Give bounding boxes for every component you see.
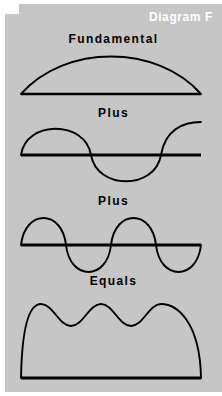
diagram-panel: Diagram F Fundamental Plus Plus [5,4,222,392]
fundamental-half-sine-icon [5,48,222,100]
second-harmonic-sine-icon [5,122,222,188]
section-title-plus-1: Plus [5,106,222,120]
corner-notch [5,4,19,14]
section-title-plus-2: Plus [5,194,222,208]
resultant-square-ish-wave-icon [5,292,222,384]
section-equals: Equals [5,268,222,388]
section-title-fundamental: Fundamental [5,32,222,46]
wave-fundamental [5,48,222,100]
section-plus-second-harmonic: Plus [5,100,222,188]
section-fundamental: Fundamental [5,22,222,100]
wave-second-harmonic [5,122,222,188]
section-plus-third-harmonic: Plus [5,188,222,280]
section-title-equals: Equals [5,274,222,288]
wave-resultant [5,292,222,384]
